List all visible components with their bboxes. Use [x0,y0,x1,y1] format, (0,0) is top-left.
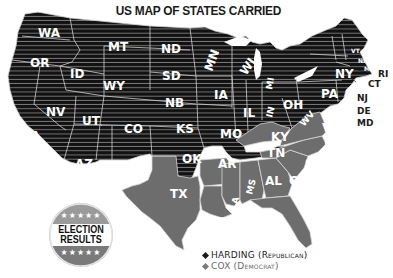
badge-stars-bottom: ★★★★★ [48,248,114,257]
label-mt: MT [108,40,129,54]
label-il: IL [243,106,255,120]
label-wy: WY [103,79,125,93]
legend-item-cox: COX (Democrat) [203,261,307,272]
legend-diamond-icon [202,263,209,270]
label-va: VA [322,121,340,135]
label-az: AZ [75,157,93,171]
label-ar: AR [218,157,237,171]
label-tx: TX [170,187,188,201]
label-ks: KS [176,122,194,136]
badge-stars-top: ★★★★★ [48,211,114,220]
label-nb: NB [165,96,184,110]
label-nh: NH [358,57,368,64]
label-ut: UT [82,114,101,128]
label-ga: GA [289,174,309,188]
legend: HARDING (Republican) COX (Democrat) [203,250,307,272]
label-ma: MA [364,65,375,72]
label-sc: SC [305,157,323,171]
label-ny: NY [335,67,354,81]
label-me: ME [370,34,385,44]
label-id: ID [70,67,84,81]
legend-diamond-icon [202,252,209,259]
label-wa: WA [38,26,61,40]
label-nv: NV [46,105,66,119]
label-tn: TN [267,146,285,160]
label-md: MD [357,118,373,128]
label-nm: NM [114,159,136,173]
label-ia: IA [214,88,228,102]
legend-label-cox: COX (Democrat) [211,261,279,272]
label-de: DE [357,106,371,116]
label-fl: FL [318,215,333,231]
label-mi: MI [264,76,276,90]
label-oh: OH [283,98,303,112]
label-co: CO [124,122,143,136]
label-ok: OK [182,152,202,166]
badge-line2: RESULTS [54,234,108,245]
label-ct: CT [368,79,382,89]
label-pa: PA [321,87,339,101]
label-al: AL [265,174,282,188]
label-nc: NC [324,139,343,153]
label-or: OR [30,56,49,70]
label-nj: NJ [357,93,368,103]
label-ca: CA [22,129,41,143]
legend-item-harding: HARDING (Republican) [203,250,307,261]
label-vt: VT [351,47,361,54]
label-la: LA [228,196,241,211]
label-sd: SD [162,69,181,83]
label-mo: MO [220,127,242,141]
election-results-badge: ★★★★★ ELECTION RESULTS ★★★★★ [48,202,114,268]
label-ky: KY [271,130,289,144]
label-nd: ND [161,42,181,56]
legend-label-harding: HARDING (Republican) [211,250,307,261]
label-ri: RI [378,69,388,79]
